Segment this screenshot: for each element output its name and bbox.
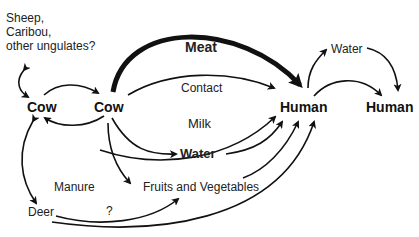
node-cow-1: Cow — [27, 99, 57, 115]
edge-label-human-water: Water — [331, 42, 363, 56]
edge-label-fruits-and-vegetables: Fruits and Vegetables — [143, 180, 259, 194]
edge-label-water: Water — [180, 147, 216, 161]
edge-label-milk: Milk — [188, 117, 211, 131]
edge-label-manure: Manure — [54, 180, 95, 194]
node-cow-2: Cow — [94, 99, 124, 115]
edge-label-meat: Meat — [185, 40, 217, 54]
edge-label-unknown: ? — [106, 204, 113, 218]
node-human-1: Human — [280, 99, 327, 115]
edge-label-contact: Contact — [181, 81, 222, 95]
other-ungulates-label: Sheep, Caribou, other ungulates? — [6, 11, 95, 53]
node-human-2: Human — [366, 99, 413, 115]
node-deer: Deer — [28, 205, 54, 219]
